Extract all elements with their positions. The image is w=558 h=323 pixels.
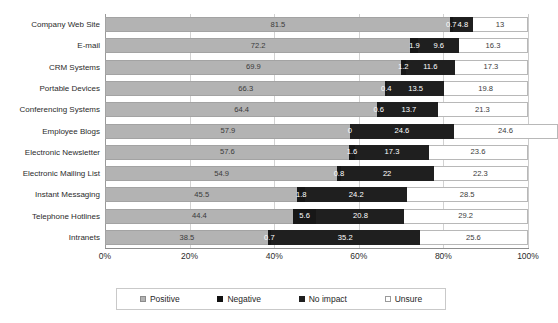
category-label: Portable Devices bbox=[40, 81, 100, 96]
bar-segment-unsure[interactable]: 28.5 bbox=[407, 187, 528, 202]
bar-segment-no-impact[interactable]: 13.7 bbox=[380, 102, 438, 117]
bar-value-label: 13.5 bbox=[408, 85, 423, 93]
category-label: Telephone Hotlines bbox=[32, 209, 100, 224]
bar-value-label: 54.9 bbox=[214, 170, 229, 178]
bar-segment-unsure[interactable]: 23.6 bbox=[429, 145, 529, 160]
category-axis-labels: Company Web SiteE-mailCRM SystemsPortabl… bbox=[0, 14, 100, 248]
x-axis-ticks: 0%20%40%60%80%100% bbox=[105, 251, 528, 265]
bar-segment-no-impact[interactable]: 20.8 bbox=[316, 209, 404, 224]
x-tick-label: 60% bbox=[350, 251, 367, 261]
bar-segment-negative[interactable]: 1.9 bbox=[410, 38, 418, 53]
bar-segment-positive[interactable]: 54.9 bbox=[105, 166, 337, 181]
bar-segment-positive[interactable]: 45.5 bbox=[105, 187, 297, 202]
x-axis-line bbox=[105, 248, 529, 249]
table-row: 64.40.613.721.3 bbox=[105, 102, 528, 117]
bar-value-label: 24.6 bbox=[395, 127, 410, 135]
table-row: 69.91.211.617.3 bbox=[105, 60, 528, 75]
bar-value-label: 72.2 bbox=[251, 42, 266, 50]
bar-value-label: 23.6 bbox=[471, 148, 486, 156]
bar-segment-unsure[interactable]: 21.3 bbox=[438, 102, 528, 117]
bar-value-label: 69.9 bbox=[246, 63, 261, 71]
bar-segment-unsure[interactable]: 19.8 bbox=[444, 81, 528, 96]
bar-segment-unsure[interactable]: 25.6 bbox=[420, 230, 528, 245]
bar-value-label: 20.8 bbox=[353, 212, 368, 220]
bar-value-label: 0.7 bbox=[264, 234, 275, 242]
table-row: 57.61.617.323.6 bbox=[105, 145, 528, 160]
table-row: 72.21.99.616.3 bbox=[105, 38, 528, 53]
legend-item-positive[interactable]: Positive bbox=[140, 294, 180, 304]
bar-value-label: 1.9 bbox=[409, 42, 420, 50]
legend-label: No impact bbox=[309, 294, 347, 304]
bar-value-label: 44.4 bbox=[192, 212, 207, 220]
category-label: E-mail bbox=[77, 38, 100, 53]
bar-segment-positive[interactable]: 72.2 bbox=[105, 38, 410, 53]
category-label: Conferencing Systems bbox=[20, 102, 100, 117]
bar-segment-unsure[interactable]: 22.3 bbox=[434, 166, 528, 181]
bar-value-label: 0.6 bbox=[373, 106, 384, 114]
bar-segment-no-impact[interactable]: 11.6 bbox=[406, 60, 455, 75]
category-label: Company Web Site bbox=[31, 17, 100, 32]
bar-value-label: 81.5 bbox=[270, 21, 285, 29]
bar-value-label: 57.9 bbox=[221, 127, 236, 135]
bar-segment-no-impact[interactable]: 9.6 bbox=[418, 38, 459, 53]
bar-segment-no-impact[interactable]: 13.5 bbox=[387, 81, 444, 96]
bar-segment-unsure[interactable]: 13 bbox=[473, 17, 528, 32]
x-tick-label: 0% bbox=[99, 251, 111, 261]
bar-segment-positive[interactable]: 64.4 bbox=[105, 102, 377, 117]
category-label: Intranets bbox=[69, 230, 100, 245]
bar-value-label: 45.5 bbox=[194, 191, 209, 199]
bar-segment-unsure[interactable]: 17.3 bbox=[455, 60, 528, 75]
legend-swatch-icon bbox=[140, 296, 146, 302]
bar-segment-positive[interactable]: 38.5 bbox=[105, 230, 268, 245]
legend-label: Negative bbox=[227, 294, 261, 304]
bar-segment-positive[interactable]: 69.9 bbox=[105, 60, 401, 75]
chart-title: ELECTRONIC COMMUNICATION IMPACT ON BUSIN… bbox=[3, 0, 234, 1]
bar-value-label: 16.3 bbox=[486, 42, 501, 50]
x-tick-label: 80% bbox=[435, 251, 452, 261]
bar-value-label: 0.4 bbox=[381, 85, 392, 93]
bar-segment-unsure[interactable]: 29.2 bbox=[404, 209, 528, 224]
bar-value-label: 13 bbox=[496, 21, 504, 29]
legend-item-unsure[interactable]: Unsure bbox=[385, 294, 422, 304]
bar-value-label: 28.5 bbox=[460, 191, 475, 199]
bar-segment-negative[interactable]: 1.8 bbox=[297, 187, 305, 202]
bar-value-label: 35.2 bbox=[338, 234, 353, 242]
legend-item-no-impact[interactable]: No impact bbox=[299, 294, 347, 304]
bar-value-label: 0.7 bbox=[446, 21, 457, 29]
bar-value-label: 19.8 bbox=[478, 85, 493, 93]
bar-value-label: 24.6 bbox=[498, 127, 513, 135]
category-label: Employee Blogs bbox=[42, 124, 100, 139]
bar-segment-no-impact[interactable]: 17.3 bbox=[355, 145, 428, 160]
bar-value-label: 13.7 bbox=[402, 106, 417, 114]
bar-value-label: 9.6 bbox=[433, 42, 444, 50]
bar-value-label: 66.3 bbox=[238, 85, 253, 93]
bar-segment-no-impact[interactable]: 24.6 bbox=[350, 124, 454, 139]
legend-swatch-icon bbox=[385, 296, 391, 302]
bar-segment-positive[interactable]: 57.6 bbox=[105, 145, 349, 160]
bar-value-label: 24.2 bbox=[349, 191, 364, 199]
bar-value-label: 4.8 bbox=[458, 21, 469, 29]
bar-value-label: 29.2 bbox=[458, 212, 473, 220]
bar-segment-unsure[interactable]: 24.6 bbox=[454, 124, 558, 139]
bar-value-label: 1.2 bbox=[398, 63, 409, 71]
bar-segment-negative[interactable]: 1.6 bbox=[349, 145, 356, 160]
bar-value-label: 0.8 bbox=[334, 170, 345, 178]
table-row: 66.30.413.519.8 bbox=[105, 81, 528, 96]
bar-segment-no-impact[interactable]: 22 bbox=[341, 166, 434, 181]
category-label: Instant Messaging bbox=[35, 187, 100, 202]
x-tick-label: 20% bbox=[181, 251, 198, 261]
bar-segment-unsure[interactable]: 16.3 bbox=[459, 38, 528, 53]
bar-value-label: 17.3 bbox=[483, 63, 498, 71]
table-row: 38.50.735.225.6 bbox=[105, 230, 528, 245]
bar-segment-negative[interactable]: 5.6 bbox=[293, 209, 317, 224]
bar-segment-no-impact[interactable]: 24.2 bbox=[305, 187, 407, 202]
legend-item-negative[interactable]: Negative bbox=[217, 294, 261, 304]
bar-segment-no-impact[interactable]: 35.2 bbox=[271, 230, 420, 245]
x-tick-label: 100% bbox=[517, 251, 539, 261]
bar-segment-positive[interactable]: 57.9 bbox=[105, 124, 350, 139]
bar-segment-positive[interactable]: 81.5 bbox=[105, 17, 450, 32]
bar-segment-positive[interactable]: 44.4 bbox=[105, 209, 293, 224]
bar-segment-positive[interactable]: 66.3 bbox=[105, 81, 385, 96]
bar-rows: 81.50.74.81372.21.99.616.369.91.211.617.… bbox=[105, 14, 528, 248]
table-row: 45.51.824.228.5 bbox=[105, 187, 528, 202]
